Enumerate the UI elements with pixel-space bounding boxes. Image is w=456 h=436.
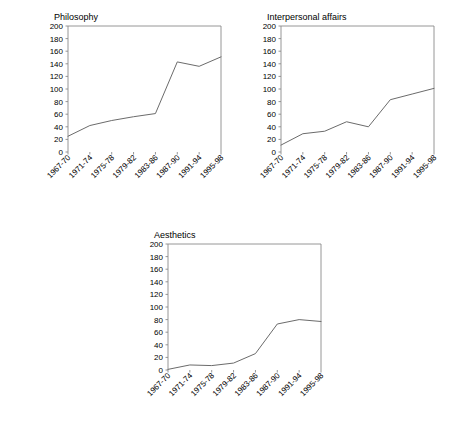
- plot-area-philosophy: 0204060801001201401601802001967-701971-7…: [40, 12, 230, 202]
- y-tick-label: 200: [50, 22, 64, 31]
- y-tick-label: 40: [267, 123, 276, 132]
- y-tick-label: 140: [50, 60, 64, 69]
- y-tick-label: 180: [150, 253, 164, 262]
- y-tick-label: 160: [263, 47, 277, 56]
- y-tick-label: 80: [267, 98, 276, 107]
- y-tick-label: 20: [267, 135, 276, 144]
- y-tick-label: 120: [150, 290, 164, 299]
- y-tick-label: 60: [54, 110, 63, 119]
- chart-title: Philosophy: [54, 12, 98, 23]
- chart-panel-aesthetics: Aesthetics 02040608010012014016018020019…: [140, 230, 330, 420]
- y-tick-label: 80: [54, 98, 63, 107]
- y-tick-label: 100: [50, 85, 64, 94]
- series-line: [281, 88, 434, 145]
- y-tick-label: 60: [154, 328, 163, 337]
- y-tick-label: 180: [50, 35, 64, 44]
- y-tick-label: 140: [150, 278, 164, 287]
- y-tick-label: 20: [54, 135, 63, 144]
- y-tick-label: 180: [263, 35, 277, 44]
- x-tick-label: 1995-98: [198, 153, 226, 181]
- y-tick-label: 120: [263, 72, 277, 81]
- y-tick-label: 40: [154, 341, 163, 350]
- y-tick-label: 100: [150, 303, 164, 312]
- series-line: [68, 57, 221, 136]
- y-tick-label: 40: [54, 123, 63, 132]
- x-tick-label: 1995-98: [411, 153, 439, 181]
- y-tick-label: 60: [267, 110, 276, 119]
- x-tick-label: 1995-98: [298, 371, 326, 399]
- y-tick-label: 80: [154, 316, 163, 325]
- plot-frame: [281, 26, 434, 152]
- chart-panel-interpersonal-affairs: Interpersonal affairs 020406080100120140…: [253, 12, 443, 202]
- plot-frame: [168, 244, 321, 370]
- y-tick-label: 120: [50, 72, 64, 81]
- chart-title: Interpersonal affairs: [267, 12, 346, 23]
- y-tick-label: 160: [50, 47, 64, 56]
- chart-panel-philosophy: Philosophy 02040608010012014016018020019…: [40, 12, 230, 202]
- y-tick-label: 140: [263, 60, 277, 69]
- y-tick-label: 200: [263, 22, 277, 31]
- y-tick-label: 20: [154, 353, 163, 362]
- plot-frame: [68, 26, 221, 152]
- plot-area-interpersonal-affairs: 0204060801001201401601802001967-701971-7…: [253, 12, 443, 202]
- series-line: [168, 320, 321, 370]
- plot-area-aesthetics: 0204060801001201401601802001967-701971-7…: [140, 230, 330, 420]
- y-tick-label: 160: [150, 265, 164, 274]
- y-tick-label: 100: [263, 85, 277, 94]
- y-tick-label: 200: [150, 240, 164, 249]
- chart-title: Aesthetics: [154, 230, 196, 241]
